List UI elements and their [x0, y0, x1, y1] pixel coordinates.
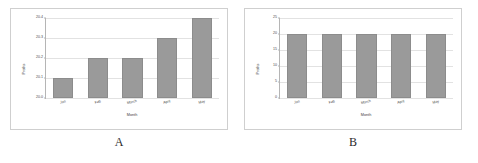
- y-tick-label: 20.3: [36, 36, 43, 40]
- chart-panel-a: Profits 20.020.120.220.320.4 JanFebMarch…: [10, 8, 228, 130]
- bar-slot: Feb: [315, 18, 350, 98]
- chart-panel-b: Profits 0510152025 JanFebMarchAprilMay M…: [244, 8, 462, 130]
- y-tick-label: 20.4: [36, 16, 43, 20]
- bar-april: [157, 38, 177, 98]
- bar-feb: [322, 34, 342, 98]
- x-axis-title-b: Month: [279, 114, 453, 118]
- y-tick-label: 5: [275, 80, 277, 84]
- bar-march: [122, 58, 142, 98]
- bar-series-a: JanFebMarchAprilMay: [46, 18, 219, 98]
- bar-may: [192, 18, 212, 98]
- y-axis-title-b: Profits: [257, 64, 261, 75]
- x-tick-label: March: [361, 100, 372, 106]
- panel-label-b: B: [244, 136, 462, 148]
- x-axis-title-a: Month: [45, 114, 219, 118]
- plot-area-a: 20.020.120.220.320.4 JanFebMarchAprilMay: [45, 18, 219, 99]
- y-tick-label: 20.0: [36, 96, 43, 100]
- bar-slot: April: [150, 18, 185, 98]
- y-tick-label: 10: [273, 64, 277, 68]
- x-tick-label: Jan: [60, 100, 66, 105]
- bar-march: [356, 34, 376, 98]
- x-tick-label: Jan: [294, 100, 300, 105]
- bar-slot: April: [384, 18, 419, 98]
- bar-series-b: JanFebMarchAprilMay: [280, 18, 453, 98]
- x-tick-label: April: [397, 100, 405, 105]
- bar-slot: May: [184, 18, 219, 98]
- x-tick-label: May: [198, 100, 205, 105]
- bar-slot: March: [349, 18, 384, 98]
- bar-slot: May: [418, 18, 453, 98]
- y-tick-label: 15: [273, 48, 277, 52]
- x-tick-label: Feb: [94, 100, 101, 105]
- bar-may: [426, 34, 446, 98]
- x-tick-label: April: [163, 100, 171, 105]
- bar-jan: [53, 78, 73, 98]
- bar-jan: [287, 34, 307, 98]
- y-tick-label: 25: [273, 16, 277, 20]
- bar-slot: March: [115, 18, 150, 98]
- x-tick-label: March: [127, 100, 138, 106]
- bar-slot: Jan: [46, 18, 81, 98]
- y-tick-label: 0: [275, 96, 277, 100]
- x-tick-label: Feb: [328, 100, 335, 105]
- figure-two-bar-charts: Profits 20.020.120.220.320.4 JanFebMarch…: [0, 0, 478, 163]
- y-tick-label: 20: [273, 32, 277, 36]
- plot-area-b: 0510152025 JanFebMarchAprilMay: [279, 18, 453, 99]
- bar-slot: Feb: [81, 18, 116, 98]
- bar-feb: [88, 58, 108, 98]
- x-tick-label: May: [432, 100, 439, 105]
- y-axis-title-a: Profits: [23, 64, 27, 75]
- panel-label-a: A: [10, 136, 228, 148]
- bar-slot: Jan: [280, 18, 315, 98]
- y-tick-label: 20.1: [36, 76, 43, 80]
- y-tick-label: 20.2: [36, 56, 43, 60]
- bar-april: [391, 34, 411, 98]
